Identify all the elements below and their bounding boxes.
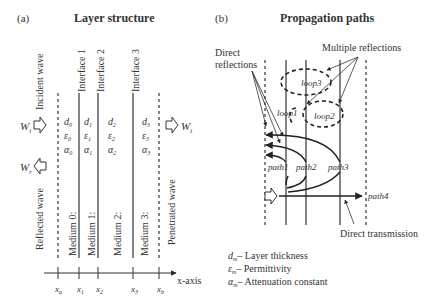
path1-label: path1: [267, 162, 289, 172]
tick-label-x2: x2: [95, 284, 103, 295]
transmitted-arrow-icon: [166, 117, 178, 133]
interface-3-label: Interface 3: [130, 49, 141, 92]
legend-thickness: dm– Layer thickness: [228, 250, 308, 262]
wi-label: Wi: [20, 120, 31, 135]
param-a2: α2: [108, 144, 116, 156]
legend: dm– Layer thickness εm– Permittivity αm–…: [228, 250, 328, 288]
panel-b-tag: (b): [215, 12, 228, 25]
interface-2-label: Interface 2: [95, 49, 106, 92]
legend-permittivity: εm– Permittivity: [228, 263, 292, 275]
param-a1: α1: [84, 144, 92, 156]
param-a0: α0: [64, 144, 72, 156]
interface-1-label: Interface 1: [76, 49, 87, 92]
path2-label: path2: [295, 162, 317, 172]
param-e2: ε2: [108, 130, 115, 142]
wr-label: Wr: [20, 161, 32, 176]
param-d3: d3: [142, 116, 150, 128]
figure-canvas: (a) Layer structure Interface 1 Interfac…: [0, 0, 438, 304]
path3-label: path3: [327, 162, 349, 172]
dt-pointer: [345, 200, 354, 224]
param-e1: ε1: [84, 130, 91, 142]
medium-0-label: Medium 0:: [67, 212, 78, 256]
tick-label-x3: x3: [130, 284, 138, 295]
incident-arrow-icon: [265, 188, 277, 204]
panel-a: (a) Layer structure Interface 1 Interfac…: [17, 11, 202, 295]
tick-label-x1: x1: [76, 284, 84, 295]
medium-3-label: Medium 3:: [139, 212, 150, 256]
loop2-label: loop2: [314, 111, 335, 121]
dr-pointer-2: [252, 71, 280, 143]
tick-label-xa: xa: [54, 284, 62, 295]
param-d0: d0: [64, 116, 72, 128]
legend-attenuation: αm– Attenuation constant: [228, 276, 328, 288]
multiple-reflections-label: Multiple reflections: [322, 42, 401, 53]
tick-label-xb: xb: [156, 284, 164, 295]
dr-pointer-3: [252, 71, 283, 136]
reflected-arrow-icon: [34, 158, 46, 174]
path1-reflection: [266, 155, 286, 162]
direct-transmission-label: Direct transmission: [340, 228, 418, 239]
medium-2-label: Medium 2:: [112, 212, 123, 256]
panel-b: (b) Propagation paths Direct reflections…: [215, 11, 418, 288]
path3-incident: [288, 172, 340, 192]
panel-b-title: Propagation paths: [280, 11, 374, 25]
penetrated-wave-label: Penetrated wave: [166, 179, 177, 245]
param-e0: ε0: [64, 130, 71, 142]
path2-incident: [287, 176, 306, 188]
param-d1: d1: [84, 116, 92, 128]
direct-reflections-label-2: reflections: [215, 59, 257, 70]
incident-wave-label: Incident wave: [34, 53, 45, 110]
direct-reflections-label-1: Direct: [215, 47, 240, 58]
reflected-wave-label: Reflected wave: [34, 188, 45, 250]
path4-label: path4: [367, 191, 389, 201]
loop1-label: loop1: [277, 108, 298, 118]
medium-1-label: Medium 1:: [86, 212, 97, 256]
param-e3: ε3: [142, 130, 149, 142]
param-d2: d2: [108, 116, 116, 128]
loop3-label: loop3: [301, 78, 322, 88]
panel-a-tag: (a): [17, 12, 30, 25]
x-axis-label: x-axis: [177, 275, 202, 286]
panel-a-title: Layer structure: [74, 11, 155, 25]
incident-arrow-icon: [34, 117, 46, 133]
wt-label: Wt: [181, 120, 193, 135]
param-a3: α3: [142, 144, 150, 156]
dr-pointer-1: [252, 71, 266, 126]
